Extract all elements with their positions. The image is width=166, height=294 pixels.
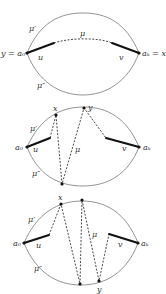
endpoint-ak [137,51,140,54]
label-path-mu: μ [92,230,97,239]
segment-v [109,234,138,243]
point-x [59,202,62,205]
label-segment-u: u [33,145,38,154]
label-right-endpoint: aₖ [141,239,149,248]
endpoint-a0 [25,145,28,148]
label-upper-arc: μ′ [29,24,36,33]
label-left-endpoint: y = a₀ [0,49,26,58]
point-y [97,279,100,282]
point-lower [78,282,81,285]
label-upper-arc: μ′ [30,124,37,133]
point-y [82,106,85,109]
label-segment-v: v [118,240,123,249]
endpoint-a0 [22,241,25,244]
label-path-mu: μ [80,29,85,38]
label-segment-v: v [122,144,127,153]
label-point-y: y [96,285,102,294]
label-path-mu: μ [75,145,80,154]
label-upper-arc: μ′ [28,215,35,224]
label-lower-arc: μ″ [34,264,42,273]
panel-2: a₀ aₖ x y μ′ μ u v μ″ [15,103,151,186]
diagram-canvas: y = a₀ aₖ = x μ′ μ u v μ″ a₀ aₖ x y μ′ μ… [0,0,166,294]
label-left-endpoint: a₀ [15,143,24,152]
panel-1: y = a₀ aₖ = x μ′ μ u v μ″ [0,13,166,95]
label-point-x: x [58,193,63,202]
label-point-y: y [87,103,93,112]
label-left-endpoint: a₀ [13,239,22,248]
endpoint-ak [137,145,140,148]
label-segment-u: u [38,53,43,62]
label-lower-arc: μ″ [37,81,45,90]
label-right-endpoint: aₖ [143,143,151,152]
panel-3: a₀ aₖ x y μ′ μ u v μ″ [13,193,149,294]
label-point-x: x [53,104,58,113]
endpoint-ak [136,241,139,244]
point-x [54,113,57,116]
label-right-endpoint: aₖ = x [142,49,166,58]
point-lower [60,182,63,185]
point-upper [80,198,83,201]
path-mu-dashed [54,39,112,43]
endpoint-a0 [25,51,28,54]
label-segment-u: u [36,241,41,250]
label-lower-arc: μ″ [32,169,40,178]
path-mu-dashed [49,200,109,284]
label-segment-v: v [119,53,124,62]
